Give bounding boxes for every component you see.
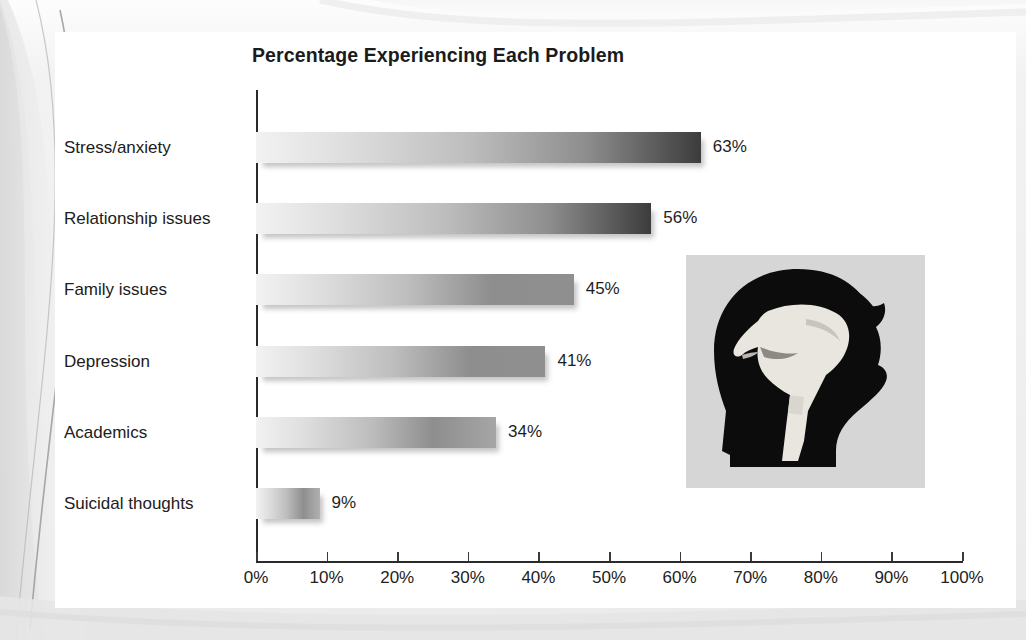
x-axis-tick: [680, 552, 682, 561]
x-axis-tick-label: 0%: [221, 568, 291, 588]
x-axis-tick-label: 90%: [856, 568, 926, 588]
head-silhouette-illustration: [686, 255, 925, 488]
category-label: Family issues: [64, 280, 250, 300]
x-axis-tick: [468, 552, 470, 561]
bar-item: 9%: [256, 488, 460, 519]
bar-item: 63%: [256, 132, 841, 163]
x-axis-tick-label: 100%: [927, 568, 997, 588]
bar-value-label: 34%: [508, 422, 542, 442]
x-axis-tick: [256, 552, 258, 561]
bar-value-label: 41%: [557, 351, 591, 371]
x-axis-tick: [962, 552, 964, 561]
category-label: Depression: [64, 352, 250, 372]
x-axis-tick-label: 50%: [574, 568, 644, 588]
x-axis-tick-label: 40%: [503, 568, 573, 588]
x-axis-tick: [821, 552, 823, 561]
bar-value-label: 56%: [663, 208, 697, 228]
bar-item: 45%: [256, 274, 714, 305]
x-axis-tick: [397, 552, 399, 561]
category-label: Academics: [64, 423, 250, 443]
x-axis-tick: [891, 552, 893, 561]
x-axis-tick-label: 10%: [292, 568, 362, 588]
bar-value-label: 9%: [332, 493, 357, 513]
x-axis-line: [256, 561, 963, 563]
category-label: Relationship issues: [64, 209, 250, 229]
category-label: Stress/anxiety: [64, 138, 250, 158]
bar: [256, 203, 651, 234]
bar-item: 41%: [256, 346, 685, 377]
bar: [256, 132, 701, 163]
bar-item: 34%: [256, 417, 636, 448]
category-label: Suicidal thoughts: [64, 494, 250, 514]
x-axis-tick-label: 70%: [715, 568, 785, 588]
x-axis-tick-label: 30%: [433, 568, 503, 588]
bar: [256, 488, 320, 519]
x-axis-tick-label: 60%: [645, 568, 715, 588]
x-axis-tick: [538, 552, 540, 561]
bar: [256, 417, 496, 448]
x-axis-tick: [609, 552, 611, 561]
bar-item: 56%: [256, 203, 791, 234]
x-axis-tick: [327, 552, 329, 561]
x-axis-tick-label: 80%: [786, 568, 856, 588]
bar: [256, 274, 574, 305]
bar-value-label: 63%: [713, 137, 747, 157]
x-axis-tick-label: 20%: [362, 568, 432, 588]
bar-value-label: 45%: [586, 279, 620, 299]
x-axis-tick: [750, 552, 752, 561]
bar: [256, 346, 545, 377]
